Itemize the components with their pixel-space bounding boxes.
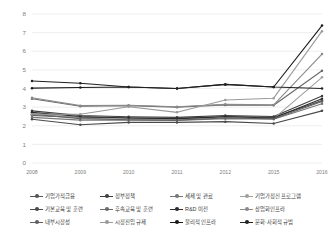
data-point [31,87,34,90]
legend-label: 기본교육 및 훈련 [45,206,83,213]
legend-item-cultural-social-norms[interactable]: 문화·사회적 규범 [240,219,325,226]
data-point [321,97,324,100]
xtick-labels: 2008200920102011201220152016 [26,169,328,175]
legend-item-taxes-bureaucracy[interactable]: 세제 및 관료 [170,193,240,200]
data-point [127,119,130,122]
legend-item-entrepreneurial-finance[interactable]: 기업가적금융 [30,193,100,200]
legend-label: 후속교육 및 훈련 [115,206,153,213]
data-point [224,103,227,106]
data-point [321,30,324,32]
legend-label: 문화·사회적 규범 [255,219,293,226]
legend-label: 물리적 인프라 [185,219,217,226]
legend-row: 내부시장성 시장진입 규제 물리적 인프라 문화·사회적 규범 [30,216,325,229]
ytick-label: 5 [23,66,27,73]
legend-item-internal-market[interactable]: 내부시장성 [30,219,100,226]
legend-line-icon [100,206,113,213]
data-point [127,121,130,124]
ytick-label: 3 [23,103,27,110]
legend-line-icon [170,206,183,213]
legend-line-icon [30,219,43,226]
legend-item-post-education[interactable]: 후속교육 및 훈련 [100,206,170,213]
legend-item-market-entry-regulation[interactable]: 시장진입 규제 [100,219,170,226]
data-point [79,124,82,127]
data-point [79,113,82,116]
data-point [224,117,227,120]
legend-line-icon [170,193,183,200]
data-point [31,118,34,121]
data-point [321,100,324,103]
data-point [127,86,130,89]
legend-row: 기본교육 및 훈련 후속교육 및 훈련 R&D 이전 상업화인프라 [30,203,325,216]
legend-item-rnd-transfer[interactable]: R&D 이전 [170,206,240,213]
data-point [272,86,275,89]
data-point [79,86,82,89]
data-point [127,106,130,109]
legend-row: 기업가적금융 정부정책 세제 및 관료 기업가정신 프로그램 [30,190,325,203]
data-point [321,53,324,56]
xtick-label: 2015 [268,169,280,175]
legend-item-government-policy[interactable]: 정부정책 [100,193,170,200]
data-point [79,115,82,118]
ytick-label: 0 [23,159,27,166]
data-point [176,111,179,114]
series-markers [31,24,324,126]
data-point [31,80,34,83]
chart-legend: 기업가적금융 정부정책 세제 및 관료 기업가정신 프로그램 기본교육 및 훈련 [0,188,331,236]
data-point [321,76,324,79]
legend-item-commercial-infrastructure[interactable]: 상업화인프라 [240,206,325,213]
data-point [31,113,34,116]
xtick-label: 2010 [123,169,135,175]
data-point [176,121,179,124]
data-point [31,97,34,100]
legend-label: R&D 이전 [185,206,208,213]
xtick-label: 2016 [316,169,328,175]
legend-item-physical-infrastructure[interactable]: 물리적 인프라 [170,219,240,226]
legend-label: 내부시장성 [45,219,70,226]
legend-line-icon [30,193,43,200]
data-point [224,83,227,86]
line-chart: 012345678 2008200920102011201220152016 기… [0,0,331,242]
legend-line-icon [30,206,43,213]
ytick-label: 4 [23,85,27,92]
data-point [176,87,179,90]
xtick-label: 2011 [171,169,182,175]
ytick-label: 8 [23,10,27,17]
legend-line-icon [240,206,253,213]
series-lines [32,26,322,125]
legend-item-basic-education[interactable]: 기본교육 및 훈련 [30,206,100,213]
chart-svg: 012345678 2008200920102011201220152016 [0,0,331,186]
data-point [272,97,275,100]
data-point [321,95,324,98]
plot-area: 012345678 2008200920102011201220152016 [0,0,331,186]
series-line [32,26,322,89]
legend-label: 세제 및 관료 [185,193,213,200]
xtick-label: 2009 [75,169,87,175]
data-point [79,82,82,85]
legend-line-icon [100,193,113,200]
legend-line-icon [240,219,253,226]
legend-label: 시장진입 규제 [115,219,147,226]
data-point [272,122,275,125]
legend-line-icon [100,219,113,226]
ytick-label: 6 [23,47,27,54]
data-point [321,24,324,27]
data-point [79,117,82,120]
data-point [272,104,275,107]
legend-item-entrepreneurship-programs[interactable]: 기업가정신 프로그램 [240,193,325,200]
data-point [321,70,324,73]
data-point [321,110,324,113]
legend-label: 기업가정신 프로그램 [255,193,302,200]
xtick-label: 2008 [26,169,38,175]
data-point [176,119,179,122]
data-point [224,120,227,123]
ytick-label: 1 [23,141,27,148]
data-point [321,87,324,90]
xtick-label: 2012 [220,169,232,175]
legend-label: 기업가적금융 [45,193,75,200]
data-point [272,117,275,120]
data-point [224,99,227,102]
legend-line-icon [170,219,183,226]
ytick-label: 2 [23,122,27,129]
data-point [321,103,324,106]
data-point [176,106,179,109]
